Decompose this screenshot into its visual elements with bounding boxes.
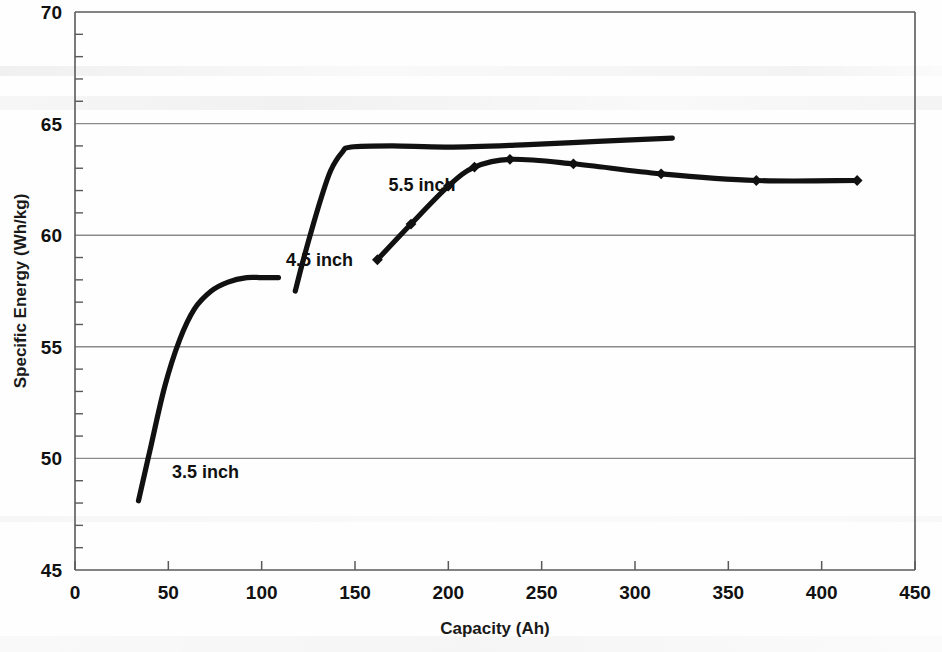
x-tick-label: 400 [806, 582, 838, 603]
y-tick-label: 55 [41, 337, 63, 358]
data-point-marker [751, 175, 762, 186]
y-tick-label: 70 [41, 2, 62, 23]
specific-energy-vs-capacity-chart: 455055606570 050100150200250300350400450… [0, 0, 942, 652]
x-tick-label: 100 [246, 582, 278, 603]
data-series-5-5-inch [372, 154, 863, 265]
x-axis-ticks [75, 561, 915, 570]
x-tick-label: 300 [619, 582, 651, 603]
x-tick-label: 0 [70, 582, 81, 603]
y-tick-label: 65 [41, 114, 63, 135]
series-annotation-label: 4.5 inch [286, 250, 353, 270]
y-tick-label: 45 [41, 560, 63, 581]
chart-page: 455055606570 050100150200250300350400450… [0, 0, 942, 652]
x-tick-label: 250 [526, 582, 558, 603]
data-series-group [138, 138, 862, 501]
y-axis-title: Specific Energy (Wh/kg) [11, 194, 30, 389]
plot-gridlines [75, 124, 915, 459]
series-annotation-label: 5.5 inch [389, 175, 456, 195]
data-point-marker [505, 154, 516, 165]
y-tick-label: 50 [41, 448, 62, 469]
data-point-marker [852, 175, 863, 186]
x-axis-title: Capacity (Ah) [440, 619, 550, 638]
series-annotation-label: 3.5 inch [172, 462, 239, 482]
y-axis-tick-labels: 455055606570 [41, 2, 63, 581]
data-point-marker [656, 168, 667, 179]
data-point-marker [568, 158, 579, 169]
y-tick-label: 60 [41, 225, 62, 246]
y-axis-ticks [75, 34, 83, 547]
x-tick-label: 50 [158, 582, 179, 603]
plot-frame [75, 12, 915, 570]
x-tick-label: 350 [712, 582, 744, 603]
x-axis-tick-labels: 050100150200250300350400450 [70, 582, 931, 603]
x-tick-label: 450 [899, 582, 931, 603]
x-tick-label: 150 [339, 582, 371, 603]
x-tick-label: 200 [432, 582, 464, 603]
